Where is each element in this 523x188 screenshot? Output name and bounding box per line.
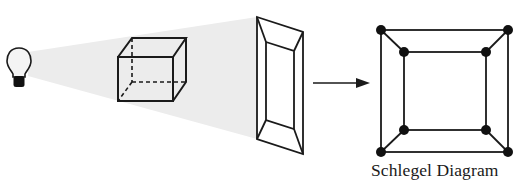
vertex	[481, 47, 491, 57]
vertex	[503, 147, 513, 157]
vertex	[481, 125, 491, 135]
arrow-right-icon	[313, 78, 370, 88]
vertex	[503, 25, 513, 35]
vertex	[376, 25, 386, 35]
vertex	[376, 147, 386, 157]
light-bulb-icon	[7, 48, 31, 87]
vertex	[399, 125, 409, 135]
projection-screen	[257, 17, 303, 154]
diagram-caption: Schlegel Diagram	[371, 160, 523, 181]
vertex	[399, 47, 409, 57]
light-cone	[28, 17, 257, 139]
